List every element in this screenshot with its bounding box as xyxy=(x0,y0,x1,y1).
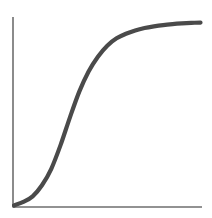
chart-figure xyxy=(0,0,212,218)
chart-background xyxy=(0,0,212,218)
sigmoid-line-chart xyxy=(0,0,212,218)
